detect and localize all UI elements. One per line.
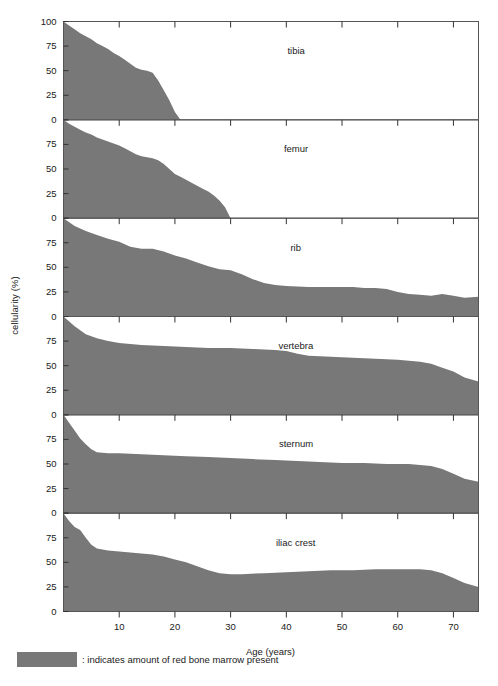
- y-tick-label: 25: [31, 581, 57, 592]
- panel-label-femur: femur: [284, 143, 308, 154]
- y-tick-label: 50: [31, 458, 57, 469]
- y-tick-label: 25: [31, 89, 57, 100]
- panel-label-rib: rib: [290, 242, 301, 253]
- y-tick-label: 0: [31, 606, 57, 617]
- y-tick-label: 75: [31, 40, 57, 51]
- panel-label-tibia: tibia: [287, 45, 304, 56]
- x-tick-label: 10: [107, 621, 131, 632]
- y-tick-label: 25: [31, 188, 57, 199]
- y-tick-label: 25: [31, 286, 57, 297]
- x-tick-label: 40: [274, 621, 298, 632]
- x-tick-label: 30: [219, 621, 243, 632]
- area-fill-tibia: [64, 22, 479, 120]
- x-tick-label: 20: [163, 621, 187, 632]
- y-tick-label: 75: [31, 237, 57, 248]
- area-fill-femur: [64, 120, 479, 218]
- y-tick-label: 0: [31, 409, 57, 420]
- x-tick-label: 50: [330, 621, 354, 632]
- panel-label-sternum: sternum: [279, 438, 313, 449]
- y-tick-label: 0: [31, 507, 57, 518]
- y-tick-label: 50: [31, 261, 57, 272]
- legend-swatch-red-marrow: [17, 652, 77, 667]
- y-tick-label: 75: [31, 138, 57, 149]
- area-fill-iliac-crest: [64, 513, 479, 611]
- area-fill-vertebra: [64, 317, 479, 415]
- legend: : indicates amount of red bone marrow pr…: [17, 652, 278, 667]
- chart-figure: cellularity (%) Age (years) : indicates …: [0, 0, 498, 686]
- y-tick-label: 25: [31, 483, 57, 494]
- area-fill-rib: [64, 218, 479, 316]
- y-tick-label: 50: [31, 556, 57, 567]
- y-tick-label: 0: [31, 114, 57, 125]
- y-tick-label: 100: [31, 16, 57, 27]
- y-axis-label: cellularity (%): [9, 246, 20, 366]
- y-tick-label: 75: [31, 532, 57, 543]
- y-tick-label: 25: [31, 384, 57, 395]
- x-tick-label: 60: [386, 621, 410, 632]
- y-tick-label: 0: [31, 212, 57, 223]
- legend-label: : indicates amount of red bone marrow pr…: [82, 654, 278, 665]
- y-tick-label: 50: [31, 360, 57, 371]
- y-tick-label: 75: [31, 335, 57, 346]
- y-tick-label: 0: [31, 311, 57, 322]
- panel-label-vertebra: vertebra: [278, 340, 313, 351]
- panel-label-iliac-crest: iliac crest: [276, 537, 316, 548]
- y-tick-label: 75: [31, 433, 57, 444]
- x-tick-label: 70: [441, 621, 465, 632]
- y-tick-label: 50: [31, 163, 57, 174]
- area-fill-sternum: [64, 415, 479, 513]
- y-tick-label: 50: [31, 65, 57, 76]
- cellularity-age-plot: [0, 0, 498, 686]
